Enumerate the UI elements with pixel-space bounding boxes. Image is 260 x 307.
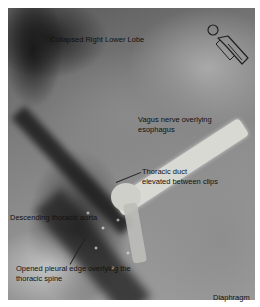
- label-descending-aorta: Descending thoracic aorta: [10, 213, 97, 222]
- label-collapsed-lung: Collapsed Right Lower Lobe: [50, 35, 144, 44]
- label-vagus-line1: Vagus nerve overlying: [138, 115, 212, 124]
- label-pleural-edge-line1: Opened pleural edge overlying the: [16, 264, 131, 273]
- label-pleural-edge-line2: thoracic spine: [16, 274, 62, 283]
- label-vagus-line2: esophagus: [138, 125, 175, 134]
- label-thoracic-duct-line2: elevated between clips: [142, 177, 218, 186]
- label-diaphragm: Diaphragm: [213, 293, 250, 302]
- patient-body-orientation-icon: [206, 22, 252, 68]
- label-thoracic-duct-line1: Thoracic duct: [142, 167, 187, 176]
